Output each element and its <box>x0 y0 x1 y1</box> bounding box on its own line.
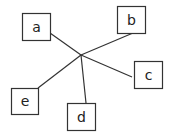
edge-hub-to-e <box>38 55 81 88</box>
nodes: abcde <box>12 7 163 131</box>
node-b: b <box>118 7 146 34</box>
node-label-b: b <box>127 12 136 28</box>
node-e: e <box>12 89 39 115</box>
edge-hub-to-b <box>81 33 133 55</box>
diagram-svg: abcde <box>0 0 171 136</box>
node-label-e: e <box>21 93 30 109</box>
star-diagram: abcde <box>0 0 171 136</box>
node-label-a: a <box>32 19 41 35</box>
node-a: a <box>23 14 51 41</box>
node-label-d: d <box>77 109 86 125</box>
node-d: d <box>68 104 96 131</box>
node-label-c: c <box>145 67 153 83</box>
edges <box>38 33 133 103</box>
edge-hub-to-c <box>81 55 132 77</box>
edge-hub-to-d <box>81 55 86 103</box>
edge-hub-to-a <box>50 33 81 55</box>
node-c: c <box>135 62 163 89</box>
